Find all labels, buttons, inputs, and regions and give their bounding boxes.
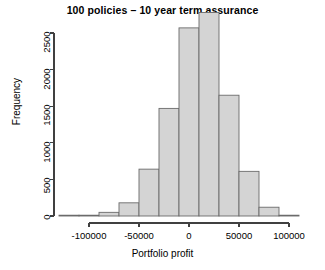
histogram-bar: [59, 215, 79, 216]
histogram-bar: [179, 28, 199, 216]
histogram-chart: 100 policies – 10 year term assurance Fr…: [0, 0, 325, 270]
histogram-bar: [259, 207, 279, 216]
y-tick-label: 2500: [41, 32, 52, 78]
bars-group: [59, 13, 299, 217]
histogram-bar: [79, 215, 99, 216]
histogram-bar: [119, 203, 139, 216]
histogram-bar: [159, 108, 179, 216]
histogram-bar: [279, 215, 299, 216]
histogram-bar: [139, 169, 159, 216]
histogram-bar: [99, 212, 119, 216]
histogram-bar: [239, 171, 259, 216]
x-tick-label: 100000: [249, 230, 325, 241]
histogram-bar: [199, 13, 219, 217]
histogram-bar: [219, 95, 239, 216]
